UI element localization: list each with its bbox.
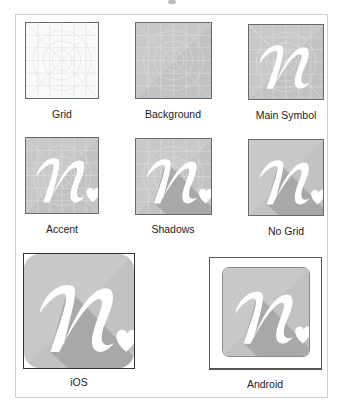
icon-layers	[223, 268, 309, 356]
icon-layers	[26, 138, 98, 213]
label-main-symbol: Main Symbol	[231, 109, 341, 121]
tile-main-symbol	[248, 24, 324, 100]
grid-layer	[26, 23, 98, 98]
label-android: Android	[210, 378, 320, 390]
label-ios: iOS	[24, 376, 134, 388]
label-shadows: Shadows	[118, 223, 228, 235]
grid-layer	[136, 23, 211, 98]
icon-layers	[136, 139, 211, 214]
top-mark	[168, 0, 176, 4]
icon-layers	[136, 23, 211, 98]
icon-artwork	[136, 23, 211, 98]
tile-background	[135, 22, 212, 99]
tile-no-grid	[248, 139, 324, 216]
label-no-grid: No Grid	[231, 225, 341, 237]
label-grid: Grid	[7, 108, 117, 120]
icon-layers	[249, 25, 323, 99]
label-accent: Accent	[7, 223, 117, 235]
icon-layers	[249, 140, 323, 215]
icon-artwork	[24, 254, 134, 368]
icon-artwork	[26, 138, 98, 213]
icon-artwork	[249, 25, 323, 99]
icon-artwork	[26, 23, 98, 98]
icon-artwork	[136, 139, 211, 214]
icon-layers	[26, 23, 98, 98]
android-icon-frame	[209, 257, 322, 370]
tile-grid	[25, 22, 99, 99]
icon-artwork	[223, 268, 309, 356]
tile-shadows	[135, 138, 212, 215]
android-icon-preview	[222, 267, 310, 357]
tile-accent	[25, 137, 99, 214]
icon-artwork	[249, 140, 323, 215]
icon-layers	[24, 254, 134, 368]
label-background: Background	[118, 108, 228, 120]
ios-icon-preview	[23, 253, 135, 369]
